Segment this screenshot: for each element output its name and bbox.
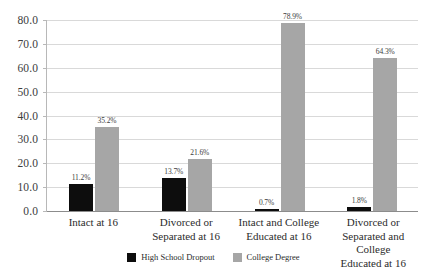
- bar-data-label: 21.6%: [190, 148, 209, 157]
- bar-college[interactable]: [95, 127, 119, 211]
- plot-area: 11.2% 35.2% 13.7% 21.6% 0.7%: [47, 20, 418, 211]
- bar-data-label: 64.3%: [376, 47, 395, 56]
- x-axis-line: [47, 211, 418, 212]
- y-axis: 80.0 70.0 60.0 50.0 40.0 30.0 20.0 10.0 …: [0, 0, 42, 273]
- bar-dropout[interactable]: [69, 184, 93, 211]
- bar-group: 1.8% 64.3%: [325, 20, 418, 211]
- y-tick-label: 50.0: [17, 86, 38, 98]
- bar-college[interactable]: [188, 159, 212, 211]
- bar-college[interactable]: [281, 23, 305, 211]
- y-tick-label: 10.0: [17, 181, 38, 193]
- y-tick-label: 70.0: [17, 38, 38, 50]
- bar-dropout[interactable]: [347, 207, 371, 211]
- legend-label: College Degree: [247, 252, 300, 262]
- chart-legend: High School Dropout College Degree: [0, 252, 427, 262]
- bar-group: 0.7% 78.9%: [233, 20, 326, 211]
- bar-college[interactable]: [373, 58, 397, 212]
- x-category-label: Intact at 16: [47, 216, 140, 230]
- bar-group: 13.7% 21.6%: [140, 20, 233, 211]
- bar-dropout[interactable]: [255, 209, 279, 212]
- bar-dropout[interactable]: [162, 178, 186, 211]
- legend-label: High School Dropout: [141, 252, 214, 262]
- bar-chart: 80.0 70.0 60.0 50.0 40.0 30.0 20.0 10.0 …: [0, 0, 427, 273]
- y-tick-label: 20.0: [17, 157, 38, 169]
- bar-data-label: 78.9%: [283, 12, 302, 21]
- y-tick-label: 60.0: [17, 62, 38, 74]
- bar-data-label: 11.2%: [72, 173, 91, 182]
- bar-group: 11.2% 35.2%: [47, 20, 140, 211]
- x-category-label: Intact and College Educated at 16: [233, 216, 326, 243]
- legend-swatch-icon: [233, 253, 242, 262]
- y-tick-label: 30.0: [17, 133, 38, 145]
- legend-item-dropout[interactable]: High School Dropout: [127, 252, 214, 262]
- bar-data-label: 1.8%: [352, 196, 367, 205]
- x-axis: Intact at 16 Divorced or Separated at 16…: [47, 216, 418, 256]
- y-tick-label: 0.0: [23, 205, 38, 217]
- y-tick-label: 80.0: [17, 14, 38, 26]
- legend-item-college[interactable]: College Degree: [233, 252, 300, 262]
- bar-data-label: 0.7%: [259, 198, 274, 207]
- x-category-label: Divorced or Separated at 16: [140, 216, 233, 243]
- bar-data-label: 13.7%: [164, 167, 183, 176]
- y-tick-label: 40.0: [17, 110, 38, 122]
- legend-swatch-icon: [127, 253, 136, 262]
- bar-data-label: 35.2%: [98, 116, 117, 125]
